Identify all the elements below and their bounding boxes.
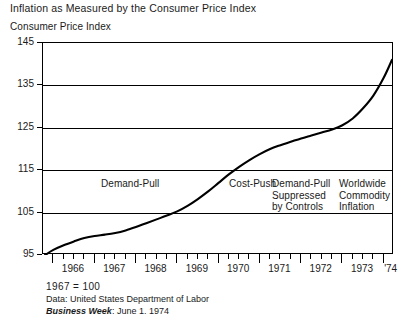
x-tick-minor xyxy=(104,254,105,259)
x-tick-minor xyxy=(125,254,126,259)
x-tick-minor xyxy=(279,254,280,259)
x-tick-minor xyxy=(197,254,198,259)
footnote-data-source: Data: United States Department of Labor xyxy=(46,294,209,304)
x-tick-minor xyxy=(238,254,239,259)
publication-name: Business Week xyxy=(46,306,112,316)
gridline-125 xyxy=(43,128,392,129)
chart-title: Inflation as Measured by the Consumer Pr… xyxy=(10,2,256,14)
chart-figure: Inflation as Measured by the Consumer Pr… xyxy=(0,0,416,329)
y-tick-label-135: 135 xyxy=(4,78,34,89)
y-tick-label-95: 95 xyxy=(4,248,34,259)
x-tick-label-1971: 1971 xyxy=(268,263,290,274)
annotation-demand-pull-suppressed: Demand-Pull Suppressed by Controls xyxy=(272,178,330,213)
annotation-demand-pull: Demand-Pull xyxy=(101,178,159,190)
x-tick-minor xyxy=(145,254,146,259)
x-tick-minor xyxy=(362,254,363,259)
x-tick-minor xyxy=(248,254,249,259)
x-tick-minor xyxy=(228,254,229,259)
x-tick-minor xyxy=(372,254,373,259)
x-tick-1971 xyxy=(259,254,260,263)
x-tick-minor xyxy=(166,254,167,259)
x-tick-1970 xyxy=(218,254,219,263)
x-tick-minor xyxy=(352,254,353,259)
y-tick-label-125: 125 xyxy=(4,121,34,132)
footnote-base-year: 1967 = 100 xyxy=(46,281,100,292)
x-tick-minor xyxy=(331,254,332,259)
footnote-publication: Business Week: June 1. 1974 xyxy=(46,306,169,316)
y-tick-label-105: 105 xyxy=(4,206,34,217)
x-tick-label-1973: 1973 xyxy=(351,263,373,274)
x-tick-1973 xyxy=(341,254,342,263)
x-tick-label-1966: 1966 xyxy=(62,263,84,274)
annotation-cost-push: Cost-Push xyxy=(229,178,276,190)
x-tick-1969 xyxy=(176,254,177,263)
x-tick-minor xyxy=(321,254,322,259)
annotation-worldwide-commodity: Worldwide Commodity Inflation xyxy=(339,178,390,213)
publication-date: : June 1. 1974 xyxy=(112,306,169,316)
gridline-115 xyxy=(43,170,392,171)
y-tick-mark-95 xyxy=(37,254,42,255)
x-tick-minor xyxy=(269,254,270,259)
x-tick-minor xyxy=(63,254,64,259)
x-tick-minor xyxy=(187,254,188,259)
x-tick-minor xyxy=(207,254,208,259)
x-tick-minor xyxy=(114,254,115,259)
x-tick-label-1974: '74 xyxy=(384,263,397,274)
x-tick-1974 xyxy=(383,254,384,263)
x-tick-label-1970: 1970 xyxy=(227,263,249,274)
x-tick-1972 xyxy=(300,254,301,263)
x-tick-label-1967: 1967 xyxy=(103,263,125,274)
gridline-135 xyxy=(43,85,392,86)
x-tick-1968 xyxy=(135,254,136,263)
x-tick-minor xyxy=(73,254,74,259)
x-tick-minor xyxy=(290,254,291,259)
x-tick-label-1969: 1969 xyxy=(186,263,208,274)
y-tick-label-115: 115 xyxy=(4,163,34,174)
x-tick-minor xyxy=(156,254,157,259)
x-tick-1966 xyxy=(52,254,53,263)
x-tick-minor xyxy=(83,254,84,259)
x-tick-minor xyxy=(310,254,311,259)
cpi-line-series xyxy=(43,43,394,255)
y-axis-title: Consumer Price Index xyxy=(10,21,111,32)
x-tick-label-1968: 1968 xyxy=(144,263,166,274)
gridline-105 xyxy=(43,213,392,214)
plot-area: Demand-PullCost-PushDemand-Pull Suppress… xyxy=(42,42,393,254)
x-tick-1967 xyxy=(94,254,95,263)
x-tick-label-1972: 1972 xyxy=(310,263,332,274)
y-tick-label-145: 145 xyxy=(4,36,34,47)
